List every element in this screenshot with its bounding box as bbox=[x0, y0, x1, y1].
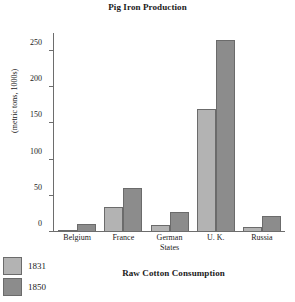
legend-swatch-1850 bbox=[3, 278, 22, 296]
bar[interactable] bbox=[170, 212, 189, 231]
y-tick-label: 250 bbox=[30, 38, 42, 47]
x-axis-category-label: France bbox=[112, 233, 134, 243]
bar-group: GermanStates bbox=[146, 33, 192, 231]
x-axis-category-line: France bbox=[112, 233, 134, 242]
x-axis-category-label: Russia bbox=[251, 233, 272, 243]
x-axis-line bbox=[53, 231, 285, 232]
bar[interactable] bbox=[123, 188, 142, 231]
bar[interactable] bbox=[262, 216, 281, 231]
x-axis-category-label: U. K. bbox=[207, 233, 225, 243]
x-axis-category-label: GermanStates bbox=[157, 233, 183, 253]
bar-group: Russia bbox=[239, 33, 285, 231]
bar[interactable] bbox=[151, 225, 170, 231]
y-tick-label: 50 bbox=[34, 182, 42, 191]
bar[interactable] bbox=[216, 40, 235, 231]
chart-title: Pig Iron Production bbox=[0, 2, 295, 12]
bar[interactable] bbox=[104, 207, 123, 231]
legend-label-1850: 1850 bbox=[28, 282, 46, 292]
next-figure-title: Raw Cotton Consumption bbox=[60, 268, 287, 278]
y-tick-label: 0 bbox=[38, 219, 42, 228]
legend-label-1831: 1831 bbox=[28, 261, 46, 271]
plot-area: 050100150200250 BelgiumFranceGermanState… bbox=[53, 33, 285, 232]
legend-item-1850[interactable]: 1850 bbox=[3, 276, 46, 297]
y-tick-label: 100 bbox=[30, 146, 42, 155]
y-tick: 0 bbox=[49, 231, 54, 232]
bar[interactable] bbox=[197, 109, 216, 231]
legend-swatch-1831 bbox=[3, 257, 22, 275]
y-tick-label: 200 bbox=[30, 74, 42, 83]
y-axis-label: (metric tons, 1000s) bbox=[10, 69, 19, 133]
legend: 1831 1850 bbox=[3, 255, 46, 297]
bar-group: U. K. bbox=[193, 33, 239, 231]
bar-group: France bbox=[100, 33, 146, 231]
bar[interactable] bbox=[58, 230, 77, 231]
bar-group: Belgium bbox=[54, 33, 100, 231]
x-axis-category-line: German bbox=[157, 233, 183, 242]
bar-groups: BelgiumFranceGermanStatesU. K.Russia bbox=[54, 33, 285, 231]
y-tick-label: 150 bbox=[30, 110, 42, 119]
x-axis-category-label: Belgium bbox=[63, 233, 91, 243]
figure-pig-iron-production: Pig Iron Production (metric tons, 1000s)… bbox=[0, 0, 295, 302]
bar[interactable] bbox=[243, 227, 262, 231]
x-axis-category-line: Russia bbox=[251, 233, 272, 242]
x-axis-category-line: U. K. bbox=[207, 233, 225, 242]
bar[interactable] bbox=[77, 224, 96, 231]
legend-item-1831[interactable]: 1831 bbox=[3, 255, 46, 276]
x-axis-category-line: States bbox=[157, 243, 183, 253]
x-axis-category-line: Belgium bbox=[63, 233, 91, 242]
